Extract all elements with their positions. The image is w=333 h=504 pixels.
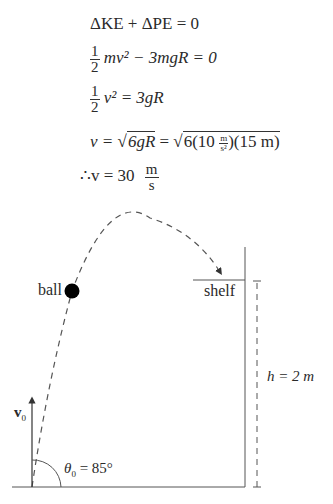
angle-arc bbox=[32, 460, 61, 487]
angle-label: θ0 = 85° bbox=[64, 460, 113, 479]
shelf-label: shelf bbox=[204, 282, 235, 300]
height-label: h = 2 m bbox=[267, 368, 314, 385]
velocity-label: v0 bbox=[14, 404, 26, 423]
ball-icon bbox=[65, 284, 80, 299]
projectile-diagram bbox=[0, 0, 333, 504]
velocity-symbol: v bbox=[14, 404, 22, 420]
angle-value: = 85° bbox=[76, 460, 113, 476]
height-label-text: h = 2 m bbox=[267, 368, 314, 384]
velocity-subscript: 0 bbox=[22, 413, 27, 423]
trajectory-path bbox=[32, 212, 220, 487]
ball-label: ball bbox=[38, 281, 62, 299]
